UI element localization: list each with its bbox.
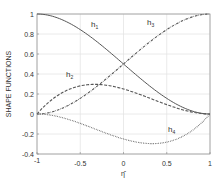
x-tick-label: 1 <box>208 160 212 167</box>
y-tick-label: 0 <box>30 111 34 118</box>
x-tick-label: -1 <box>34 157 40 164</box>
y-tick-label: -0.4 <box>22 151 34 158</box>
y-tick-label: 0.6 <box>24 51 34 58</box>
y-tick-label: 1 <box>30 11 34 18</box>
y-axis-ticks: -0.4-0.200.20.40.60.81 <box>22 11 39 158</box>
curve-label-h2: h2 <box>66 70 73 80</box>
curve-label-h4: h4 <box>168 125 175 135</box>
x-tick-label: -0.5 <box>74 160 86 167</box>
shape-functions-chart: -0.4-0.200.20.40.60.81 -1-0.500.51 h1h2h… <box>0 0 221 186</box>
y-axis-label: SHAPE FUNCTIONS <box>5 50 12 117</box>
x-tick-label: 0.5 <box>162 160 172 167</box>
x-axis-label: η̂ <box>121 170 127 178</box>
x-tick-label: 0 <box>122 160 126 167</box>
grid-lines <box>37 14 210 154</box>
y-tick-label: 0.4 <box>24 71 34 78</box>
curve-label-h3: h3 <box>147 18 154 28</box>
curve-labels: h1h2h3h4 <box>66 18 175 135</box>
curve-label-h1: h1 <box>91 20 98 30</box>
y-tick-label: 0.2 <box>24 91 34 98</box>
y-tick-label: 0.8 <box>24 31 34 38</box>
y-tick-label: -0.2 <box>22 131 34 138</box>
